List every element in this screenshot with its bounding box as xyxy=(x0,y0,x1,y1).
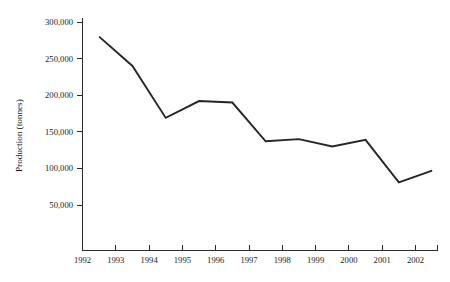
y-tick-label: 50,000 xyxy=(49,200,73,210)
x-tick-label: 2002 xyxy=(407,255,424,265)
y-axis-title: Production (tonnes) xyxy=(14,99,24,172)
x-tick-label: 1993 xyxy=(107,255,124,265)
y-axis-title-text: Production (tonnes) xyxy=(14,99,24,172)
x-tick-marks xyxy=(83,244,438,251)
data-series-line xyxy=(99,37,432,183)
x-tick-label: 1996 xyxy=(207,255,225,265)
y-tick-label: 200,000 xyxy=(45,90,73,100)
y-tick-label: 300,000 xyxy=(45,17,73,27)
y-tick-marks xyxy=(77,22,83,205)
x-tick-label: 2001 xyxy=(374,255,391,265)
y-tick-label: 150,000 xyxy=(45,127,73,137)
line-chart: Production (tonnes) 300,000 250,000 200,… xyxy=(0,0,450,282)
x-tick-label: 1997 xyxy=(240,255,258,265)
y-tick-label: 100,000 xyxy=(45,163,73,173)
x-tick-label: 1994 xyxy=(141,255,159,265)
y-tick-label: 250,000 xyxy=(45,54,73,64)
x-tick-labels: 1992 1993 1994 1995 1996 1997 1998 1999 … xyxy=(74,255,424,265)
x-tick-label: 1999 xyxy=(307,255,324,265)
y-tick-labels: 300,000 250,000 200,000 150,000 100,000 … xyxy=(45,17,73,210)
x-tick-label: 1995 xyxy=(174,255,191,265)
x-tick-label: 1998 xyxy=(274,255,291,265)
x-tick-label: 1992 xyxy=(74,255,91,265)
chart-canvas: Production (tonnes) 300,000 250,000 200,… xyxy=(0,0,450,282)
x-tick-label: 2000 xyxy=(340,255,357,265)
